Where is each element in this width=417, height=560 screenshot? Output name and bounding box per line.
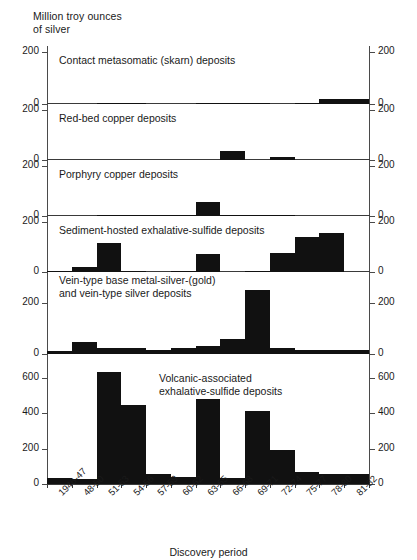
y-tick-label-right: 400 (378, 406, 395, 417)
y-tick-right (370, 216, 375, 217)
panel-plot-sediment-hosted-exhalative-sulfide: 00200200Sediment-hosted exhalative-sulfi… (47, 216, 370, 272)
y-tick-label-left: 0 (33, 347, 39, 358)
panel-red-bed-copper: 00200200Red-bed copper deposits (47, 104, 370, 160)
panel-volcanic-associated-exhalative-sulfide: 00200200400400600600Volcanic-associated … (47, 354, 370, 484)
y-tick-label-right: 200 (378, 103, 395, 114)
y-tick-label-left: 0 (33, 265, 39, 276)
bar (196, 202, 221, 217)
panel-title-porphyry-copper: Porphyry copper deposits (59, 168, 178, 181)
y-tick-left (42, 303, 47, 304)
y-tick-label-right: 0 (378, 265, 384, 276)
panel-plot-red-bed-copper: 00200200Red-bed copper deposits (47, 104, 370, 160)
x-tick-labels: 1946-4748-5051-5354-5657-5960-6263-6566-… (47, 490, 370, 546)
y-tick-right (370, 449, 375, 450)
panel-porphyry-copper: 00200200Porphyry copper deposits (47, 160, 370, 216)
y-tick-right (370, 413, 375, 414)
y-tick-label-left: 0 (33, 477, 39, 488)
bar (270, 253, 295, 273)
y-tick-left (42, 166, 47, 167)
y-tick-label-left: 200 (22, 103, 39, 114)
bar (295, 237, 320, 272)
y-tick-label-right: 0 (378, 347, 384, 358)
y-tick-left (42, 52, 47, 53)
y-tick-right (370, 110, 375, 111)
bar (196, 346, 221, 354)
y-tick-label-left: 600 (22, 371, 39, 382)
bar (97, 243, 122, 272)
chart-figure: Million troy ounces of silver 00200200Co… (0, 0, 417, 560)
y-tick-right (370, 272, 375, 273)
y-tick-left (42, 413, 47, 414)
y-tick-label-left: 200 (22, 442, 39, 453)
panel-plot-porphyry-copper: 00200200Porphyry copper deposits (47, 160, 370, 216)
bar (220, 339, 245, 354)
y-tick-label-right: 200 (378, 159, 395, 170)
y-tick-label-left: 400 (22, 406, 39, 417)
y-tick-right (370, 52, 375, 53)
bar (220, 151, 245, 161)
y-tick-right (370, 222, 375, 223)
y-tick-label-left: 200 (22, 45, 39, 56)
x-tick (47, 484, 48, 488)
y-tick-label-left: 200 (22, 296, 39, 307)
bar (72, 342, 97, 354)
bar (319, 233, 344, 273)
panel-sediment-hosted-exhalative-sulfide: 00200200Sediment-hosted exhalative-sulfi… (47, 216, 370, 272)
y-tick-right (370, 160, 375, 161)
panel-title-contact-metasomatic: Contact metasomatic (skarn) deposits (59, 54, 235, 67)
y-tick-label-right: 200 (378, 215, 395, 226)
y-tick-left (42, 110, 47, 111)
panel-contact-metasomatic: 00200200Contact metasomatic (skarn) depo… (47, 46, 370, 104)
y-tick-right (370, 354, 375, 355)
y-tick-right (370, 378, 375, 379)
panel-title-volcanic-associated-exhalative-sulfide: Volcanic-associated exhalative-sulfide d… (159, 372, 282, 397)
panel-title-red-bed-copper: Red-bed copper deposits (59, 112, 176, 125)
panel-title-vein-type-base-metal-silver-gold: Vein-type base metal-silver-(gold) and v… (59, 274, 215, 299)
bar (196, 254, 221, 272)
y-tick-right (370, 303, 375, 304)
y-tick-right (370, 104, 375, 105)
bar (121, 405, 146, 484)
y-tick-left (42, 222, 47, 223)
y-tick-label-right: 600 (378, 371, 395, 382)
y-tick-left (42, 378, 47, 379)
y-tick-right (370, 166, 375, 167)
panel-title-sediment-hosted-exhalative-sulfide: Sediment-hosted exhalative-sulfide depos… (59, 224, 264, 237)
bar (196, 399, 221, 484)
x-axis-title: Discovery period (47, 546, 370, 558)
y-tick-label-left: 200 (22, 159, 39, 170)
y-tick-left (42, 449, 47, 450)
y-tick-label-right: 200 (378, 296, 395, 307)
panel-plot-vein-type-base-metal-silver-gold: 00200200Vein-type base metal-silver-(gol… (47, 272, 370, 354)
y-axis-label: Million troy ounces of silver (33, 10, 122, 36)
bar (97, 372, 122, 484)
y-tick-label-right: 0 (378, 477, 384, 488)
y-tick-label-right: 200 (378, 45, 395, 56)
panel-plot-contact-metasomatic: 00200200Contact metasomatic (skarn) depo… (47, 46, 370, 104)
y-tick-label-left: 200 (22, 215, 39, 226)
bar (245, 411, 270, 484)
bar (245, 290, 270, 354)
panel-plot-volcanic-associated-exhalative-sulfide: 00200200400400600600Volcanic-associated … (47, 354, 370, 484)
panel-vein-type-base-metal-silver-gold: 00200200Vein-type base metal-silver-(gol… (47, 272, 370, 354)
y-tick-label-right: 200 (378, 442, 395, 453)
plot-area: 00200200Contact metasomatic (skarn) depo… (47, 46, 370, 484)
